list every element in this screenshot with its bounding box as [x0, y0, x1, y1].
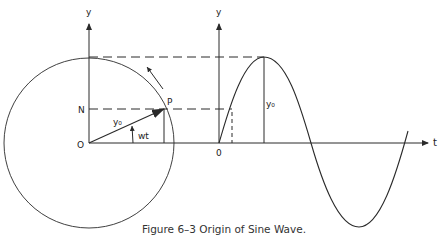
radius-label: y₀: [113, 117, 122, 127]
radius-vector-arrow: [89, 109, 164, 143]
time-axis-label: t: [433, 137, 437, 148]
figure-caption: Figure 6–3 Origin of Sine Wave.: [142, 223, 306, 235]
rotation-arrow: [147, 67, 163, 89]
circle-origin-label: O: [77, 140, 84, 150]
sine-wave-origin-diagram: y y N P O 0 y₀ wt y₀ t Figure 6–3 Origin…: [0, 0, 442, 241]
circle-y-axis-label: y: [86, 7, 92, 17]
amplitude-label: y₀: [266, 99, 275, 109]
wave-origin-label: 0: [216, 148, 222, 158]
p-label: P: [167, 97, 173, 107]
wave-y-axis-label: y: [216, 7, 222, 17]
n-label: N: [78, 105, 85, 115]
sine-curve: [219, 57, 408, 227]
angle-arrow: [132, 126, 133, 143]
angle-label: wt: [138, 131, 149, 141]
